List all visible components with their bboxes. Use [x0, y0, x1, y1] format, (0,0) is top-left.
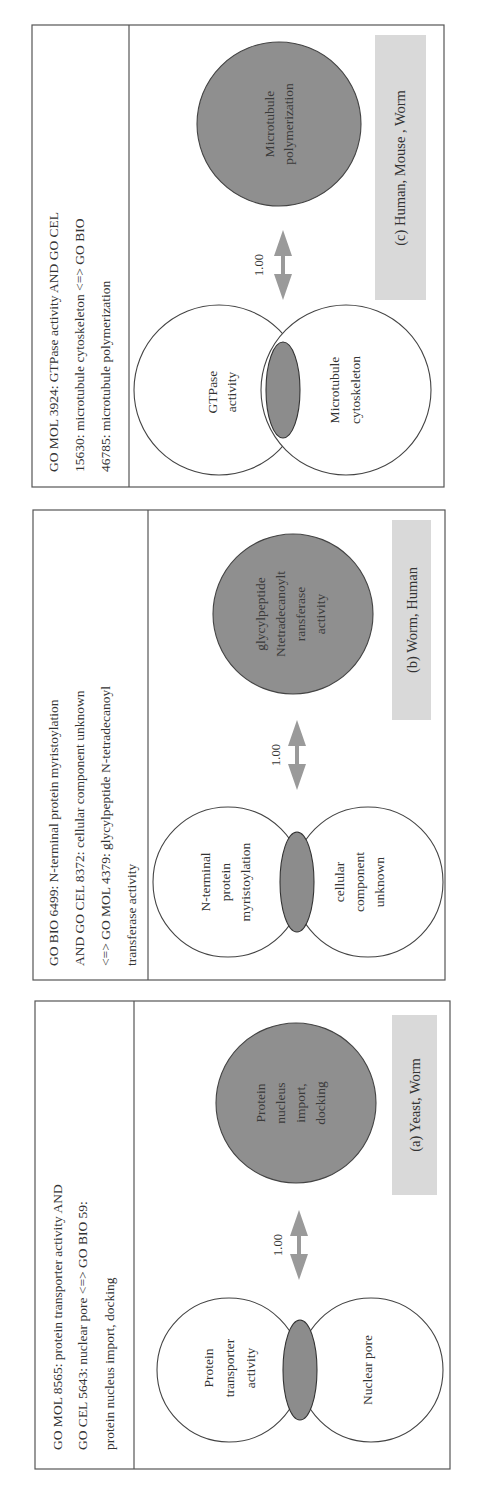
association-score: 1.00	[271, 1234, 285, 1256]
panel-c: GO MOL 3924: GTPase activity AND GO CEL …	[32, 25, 444, 487]
venn-right-label: Microtubule	[327, 357, 342, 424]
target-term-label: Microtubule	[262, 91, 277, 158]
venn-left-label: GTPase	[205, 371, 220, 414]
venn-diagram	[153, 807, 443, 957]
panel-a: GO MOL 8565: protein transporter activit…	[35, 1001, 450, 1469]
target-term-label: glycylpeptide	[253, 577, 268, 650]
header-line: 15630: microtubule cytoskeleton <=> GO B…	[72, 218, 87, 472]
bidirectional-arrow-icon	[290, 1210, 308, 1280]
target-term-label: polymerization	[281, 83, 296, 165]
target-term-label: nucleus	[273, 1082, 288, 1123]
header-line: AND GO CEL 8372: cellular component unkn…	[72, 690, 87, 966]
venn-overlap	[283, 1320, 317, 1420]
venn-right-label: component	[352, 852, 367, 912]
venn-left-label: Protein	[201, 1348, 216, 1387]
header-line: GO MOL 8565: protein transporter activit…	[50, 1184, 65, 1450]
association-score: 1.00	[252, 254, 266, 276]
species-label: (c) Human, Mouse , Worm	[392, 89, 409, 245]
target-term-circle	[197, 42, 361, 206]
panel-b: GO BIO 6499: N-terminal protein myristoy…	[33, 510, 445, 980]
venn-left-label: myristoylation	[238, 842, 253, 921]
header-line: GO BIO 6499: N-terminal protein myristoy…	[46, 699, 61, 966]
bidirectional-arrow-icon	[288, 720, 306, 790]
venn-overlap	[266, 342, 300, 438]
panel-b-header: GO BIO 6499: N-terminal protein myristoy…	[46, 686, 139, 966]
header-line: GO MOL 3924: GTPase activity AND GO CEL	[46, 212, 61, 472]
species-label: (a) Yeast, Worm	[407, 1057, 424, 1151]
header-line: <=> GO MOL 4379: glycylpeptide N-tetrade…	[98, 686, 113, 966]
venn-right-label: Nuclear pore	[360, 1335, 375, 1405]
venn-left-label: transporter	[222, 1338, 237, 1397]
target-term-label: Ntetradecanoylt	[273, 571, 288, 657]
venn-right-label: cytoskeleton	[348, 356, 363, 424]
association-score: 1.00	[269, 744, 283, 766]
target-term-label: ransferase	[293, 587, 308, 642]
header-line: GO CEL 5643: nuclear pore <=> GO BIO 59:	[75, 1201, 90, 1450]
venn-diagram	[157, 1298, 443, 1442]
venn-left-label: activity	[243, 1348, 258, 1389]
panel-c-header: GO MOL 3924: GTPase activity AND GO CEL …	[46, 212, 113, 472]
venn-left-label: protein	[218, 863, 233, 901]
venn-left-label: N-terminal	[198, 852, 213, 911]
venn-right-label: cellular	[332, 861, 347, 902]
venn-diagram	[134, 305, 431, 475]
panel-a-header: GO MOL 8565: protein transporter activit…	[50, 1184, 117, 1450]
header-line: transferase activity	[124, 863, 139, 966]
target-term-label: activity	[313, 594, 328, 635]
target-term-label: import,	[293, 1083, 308, 1122]
header-line: protein nucleus import, docking	[102, 1277, 117, 1450]
header-line: 46785: microtubule polymerization	[98, 281, 113, 472]
venn-right-label: unknown	[372, 857, 387, 907]
species-label: (b) Worm, Human	[404, 566, 421, 673]
venn-left-label: activity	[224, 372, 239, 413]
bidirectional-arrow-icon	[274, 230, 292, 300]
venn-circle-right	[293, 807, 443, 957]
target-term-label: Protein	[253, 1083, 268, 1122]
venn-overlap	[280, 832, 314, 932]
target-term-label: docking	[313, 1081, 328, 1125]
